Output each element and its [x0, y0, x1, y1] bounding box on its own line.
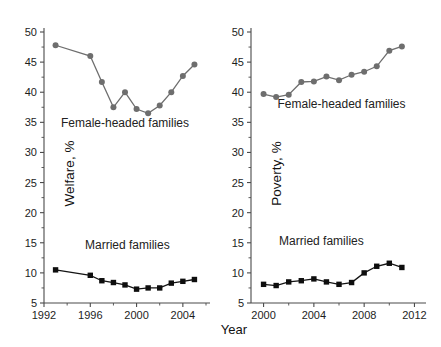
- x-tick-label-left-1996: 1996: [78, 309, 102, 321]
- x-tick-label-right-2000: 2000: [251, 309, 275, 321]
- y-tick-label-left-40: 40: [25, 86, 37, 98]
- data-point-left-1-6[interactable]: [145, 285, 150, 290]
- chart-figure: 51015202530354045501992199620002004Welfa…: [0, 0, 441, 347]
- data-point-right-0-0[interactable]: [261, 91, 267, 97]
- data-point-right-1-7[interactable]: [349, 280, 354, 285]
- y-axis-title-left: Welfare, %: [62, 141, 77, 207]
- x-tick-label-left-2004: 2004: [171, 309, 195, 321]
- chart-panel-left: 51015202530354045501992199620002004Welfa…: [25, 26, 210, 321]
- y-tick-label-right-40: 40: [232, 86, 244, 98]
- series-annotation-left-1: Married families: [85, 238, 170, 252]
- chart-svg: 51015202530354045501992199620002004Welfa…: [0, 0, 441, 347]
- data-point-right-0-7[interactable]: [349, 72, 355, 78]
- data-point-left-1-8[interactable]: [169, 280, 174, 285]
- series-annotation-right-1: Married families: [279, 234, 364, 248]
- chart-panel-right: 51015202530354045502000200420082012Pover…: [232, 26, 427, 321]
- x-tick-label-left-1992: 1992: [32, 309, 56, 321]
- data-point-right-0-5[interactable]: [323, 74, 329, 80]
- data-point-left-0-4[interactable]: [122, 89, 128, 95]
- y-tick-label-left-30: 30: [25, 146, 37, 158]
- data-point-right-1-0[interactable]: [261, 282, 266, 287]
- data-point-left-1-2[interactable]: [99, 278, 104, 283]
- data-point-right-0-9[interactable]: [374, 63, 380, 69]
- data-point-left-1-9[interactable]: [180, 279, 185, 284]
- y-tick-label-left-10: 10: [25, 267, 37, 279]
- y-tick-label-right-50: 50: [232, 26, 244, 38]
- data-point-right-1-1[interactable]: [273, 283, 278, 288]
- data-point-right-0-4[interactable]: [311, 78, 317, 84]
- data-point-left-1-3[interactable]: [111, 280, 116, 285]
- data-point-left-0-1[interactable]: [87, 53, 93, 59]
- x-tick-label-right-2008: 2008: [352, 309, 376, 321]
- data-point-right-1-11[interactable]: [399, 265, 404, 270]
- series-annotation-left-0: Female-headed families: [61, 116, 189, 130]
- x-axis-title: Year: [221, 322, 248, 337]
- data-point-left-1-4[interactable]: [122, 282, 127, 287]
- y-tick-label-right-35: 35: [232, 116, 244, 128]
- data-point-left-0-7[interactable]: [157, 102, 163, 108]
- data-point-left-0-2[interactable]: [99, 79, 105, 85]
- data-point-right-0-3[interactable]: [298, 79, 304, 85]
- series-line-right-1: [264, 263, 402, 285]
- y-tick-label-right-25: 25: [232, 177, 244, 189]
- data-point-right-0-6[interactable]: [336, 77, 342, 83]
- data-point-left-0-0[interactable]: [53, 42, 59, 48]
- y-tick-label-right-45: 45: [232, 56, 244, 68]
- y-axis-title-right: Poverty, %: [269, 141, 284, 205]
- y-tick-label-left-25: 25: [25, 177, 37, 189]
- y-tick-label-left-15: 15: [25, 237, 37, 249]
- y-tick-label-right-10: 10: [232, 267, 244, 279]
- y-tick-label-left-50: 50: [25, 26, 37, 38]
- data-point-left-0-9[interactable]: [180, 73, 186, 79]
- data-point-right-1-2[interactable]: [286, 279, 291, 284]
- data-point-left-0-10[interactable]: [191, 62, 197, 68]
- data-point-left-0-8[interactable]: [168, 89, 174, 95]
- data-point-right-1-5[interactable]: [324, 279, 329, 284]
- y-tick-label-left-20: 20: [25, 207, 37, 219]
- data-point-right-1-9[interactable]: [374, 264, 379, 269]
- data-point-left-1-10[interactable]: [192, 277, 197, 282]
- y-tick-label-right-5: 5: [238, 297, 244, 309]
- series-line-right-0: [264, 46, 402, 97]
- y-tick-label-right-15: 15: [232, 237, 244, 249]
- data-point-left-1-5[interactable]: [134, 286, 139, 291]
- data-point-left-1-1[interactable]: [88, 273, 93, 278]
- y-tick-label-left-35: 35: [25, 116, 37, 128]
- x-tick-label-right-2012: 2012: [402, 309, 426, 321]
- series-line-left-0: [56, 45, 195, 113]
- data-point-right-1-4[interactable]: [311, 276, 316, 281]
- data-point-left-0-3[interactable]: [110, 104, 116, 110]
- data-point-right-0-10[interactable]: [386, 48, 392, 54]
- x-tick-label-left-2000: 2000: [124, 309, 148, 321]
- data-point-right-1-10[interactable]: [387, 261, 392, 266]
- data-point-right-1-6[interactable]: [336, 282, 341, 287]
- x-tick-label-right-2004: 2004: [302, 309, 326, 321]
- data-point-left-1-0[interactable]: [53, 267, 58, 272]
- y-tick-label-left-45: 45: [25, 56, 37, 68]
- data-point-right-0-11[interactable]: [399, 43, 405, 49]
- series-annotation-right-0: Female-headed families: [277, 97, 405, 111]
- y-tick-label-right-20: 20: [232, 207, 244, 219]
- y-tick-label-right-30: 30: [232, 146, 244, 158]
- y-tick-label-left-5: 5: [31, 297, 37, 309]
- data-point-right-0-8[interactable]: [361, 69, 367, 75]
- data-point-right-1-8[interactable]: [361, 270, 366, 275]
- data-point-right-1-3[interactable]: [299, 278, 304, 283]
- data-point-left-1-7[interactable]: [157, 285, 162, 290]
- data-point-left-0-5[interactable]: [134, 106, 140, 112]
